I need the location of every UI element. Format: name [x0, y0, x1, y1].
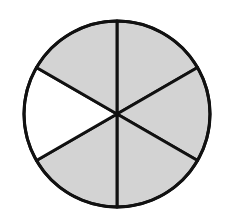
fraction-circle-diagram [0, 0, 227, 217]
fraction-circle [0, 0, 227, 217]
